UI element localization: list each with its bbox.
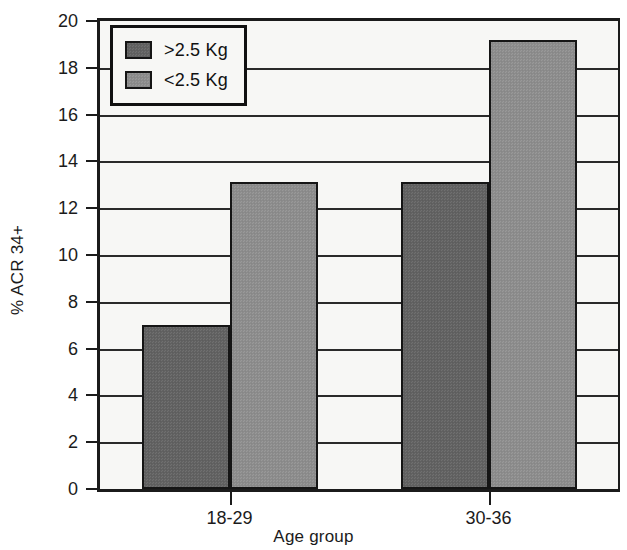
x-axis-tick-mark [489, 492, 491, 505]
y-axis-tick-mark [86, 20, 97, 22]
y-axis-tick-mark [86, 488, 97, 490]
y-axis-tick-label: 10 [30, 246, 78, 264]
y-axis-tick-mark [86, 254, 97, 256]
legend-swatch-icon [125, 41, 152, 59]
legend-label: <2.5 Kg [164, 70, 228, 91]
y-axis-tick-mark [86, 394, 97, 396]
bar [401, 182, 489, 489]
bar [489, 40, 577, 489]
y-axis-tick-mark [86, 160, 97, 162]
y-axis-tick-label: 4 [30, 386, 78, 404]
bar [230, 182, 318, 489]
y-axis-tick-mark [86, 114, 97, 116]
y-axis-tick-mark [86, 67, 97, 69]
x-axis-tick-label: 18-29 [160, 508, 300, 529]
y-axis-tick-label: 6 [30, 340, 78, 358]
legend-item: >2.5 Kg [125, 35, 228, 65]
y-axis-tick-label: 12 [30, 199, 78, 217]
x-axis-title: Age group [0, 527, 627, 547]
legend-swatch-icon [125, 71, 152, 89]
y-axis-tick-mark [86, 441, 97, 443]
y-axis-tick-mark [86, 348, 97, 350]
y-axis-tick-mark [86, 301, 97, 303]
y-axis-tick-label: 16 [30, 106, 78, 124]
y-axis-tick-label: 18 [30, 59, 78, 77]
y-axis-tick-marks [86, 0, 97, 550]
bar-chart-figure: % ACR 34+ 02468101214161820 18-2930-36 A… [0, 0, 627, 550]
bar [142, 325, 230, 489]
legend-item: <2.5 Kg [125, 65, 228, 95]
y-axis-tick-label: 14 [30, 152, 78, 170]
y-axis-tick-label: 0 [30, 480, 78, 498]
y-axis-tick-labels: 02468101214161820 [30, 0, 78, 550]
x-axis-tick-mark [230, 492, 232, 505]
x-axis-tick-label: 30-36 [419, 508, 559, 529]
y-axis-tick-label: 2 [30, 433, 78, 451]
y-axis-title: % ACR 34+ [8, 190, 28, 350]
chart-legend: >2.5 Kg<2.5 Kg [110, 25, 247, 106]
y-axis-tick-mark [86, 207, 97, 209]
y-axis-tick-label: 8 [30, 293, 78, 311]
y-axis-tick-label: 20 [30, 12, 78, 30]
legend-label: >2.5 Kg [164, 40, 228, 61]
